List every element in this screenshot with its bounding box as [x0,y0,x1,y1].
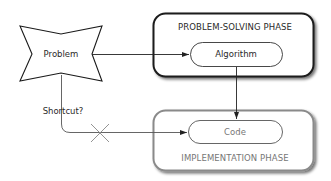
algorithm-label: Algorithm [215,49,257,59]
x-mark-icon [91,124,109,142]
code-label: Code [224,127,246,137]
shortcut-label: Shortcut? [43,106,84,116]
problem-label: Problem [44,49,79,59]
implementation-phase-title: IMPLEMENTATION PHASE [181,153,288,163]
problem-solving-phase-title: PROBLEM-SOLVING PHASE [178,22,292,32]
